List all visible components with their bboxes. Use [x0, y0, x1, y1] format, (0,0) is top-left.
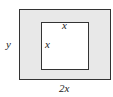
- inner-left-label: x: [45, 39, 50, 50]
- outer-height-label: y: [6, 39, 11, 50]
- outer-width-label: 2x: [59, 83, 69, 94]
- inner-top-label: x: [62, 20, 67, 31]
